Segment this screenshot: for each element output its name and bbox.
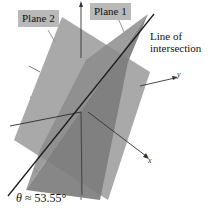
y-axis-label: y <box>177 70 181 79</box>
planes-diagram <box>0 0 216 209</box>
plane1-pointer <box>118 18 124 32</box>
x-axis-label: x <box>148 156 152 165</box>
intersecting-planes-figure: Plane 2 Plane 1 Line of intersection y x… <box>0 0 216 209</box>
angle-value: ≈ 53.55° <box>22 191 66 205</box>
plane2-pointer <box>48 30 55 42</box>
plane-1-label: Plane 1 <box>90 3 131 20</box>
angle-label: θ ≈ 53.55° <box>16 191 66 206</box>
axis-tick <box>29 66 40 72</box>
intersection-label-line2: intersection <box>150 42 201 54</box>
z-axis-arrow-icon <box>79 1 83 7</box>
plane-2-label: Plane 2 <box>18 10 59 27</box>
intersection-label-line1: Line of <box>150 30 182 42</box>
